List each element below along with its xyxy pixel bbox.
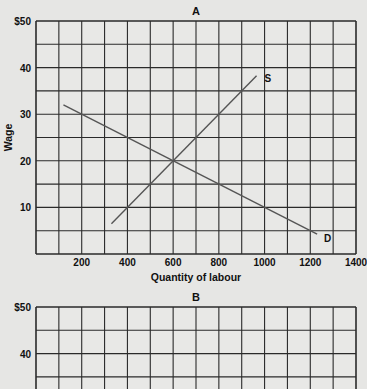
curve-label-d: D [324,233,331,244]
y-tick-label: 40 [20,63,32,74]
x-tick-label: 1400 [345,257,367,268]
y-tick-label: 10 [20,202,32,213]
y-tick-label: $50 [14,16,31,27]
y-tick-label: 30 [20,109,32,120]
x-tick-label: 1200 [299,257,322,268]
chart-title: B [192,291,200,303]
y-tick-label: $50 [14,302,31,313]
x-tick-label: 1000 [253,257,276,268]
chart-title: A [192,5,200,17]
x-tick-label: 200 [73,257,90,268]
curve-label-s: S [265,73,272,84]
chart-canvas: A10203040$50200400600800100012001400Quan… [0,0,367,389]
y-axis-label: Wage [2,124,14,152]
x-tick-label: 400 [119,257,136,268]
x-tick-label: 600 [165,257,182,268]
chart-b: B40$50 [14,291,356,389]
y-tick-label: 40 [20,349,32,360]
x-axis-label: Quantity of labour [151,271,241,283]
chart-a: A10203040$50200400600800100012001400Quan… [2,5,367,283]
y-tick-label: 20 [20,156,32,167]
x-tick-label: 800 [211,257,228,268]
